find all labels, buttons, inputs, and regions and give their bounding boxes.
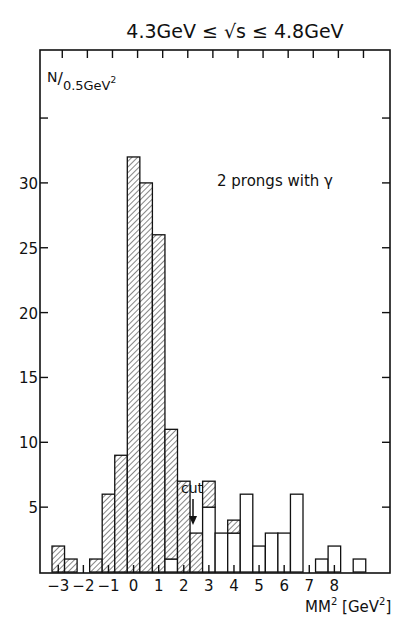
- cut-label: cut: [181, 480, 204, 496]
- x-tick-label: 0: [129, 577, 139, 595]
- x-tick-label: 1: [154, 577, 164, 595]
- x-tick-label: −3: [47, 577, 69, 595]
- y-tick-label: 5: [28, 499, 38, 517]
- histogram-bars: [52, 157, 366, 572]
- x-tick-label: −1: [97, 577, 119, 595]
- hatched-bar: [90, 559, 103, 572]
- chart-title: 4.3GeV ≤ √s ≤ 4.8GeV: [126, 20, 343, 42]
- hatched-bar: [127, 157, 140, 572]
- x-tick-label: 6: [279, 577, 289, 595]
- y-axis-label: N/0.5GeV2: [47, 69, 116, 93]
- y-tick-label: 20: [19, 305, 38, 323]
- x-tick-label: 4: [229, 577, 239, 595]
- x-tick-label: −2: [72, 577, 94, 595]
- hatched-bar: [203, 481, 216, 507]
- x-tick-label: 8: [330, 577, 340, 595]
- hatched-bar: [190, 533, 203, 572]
- hatched-bar: [228, 520, 241, 533]
- open-bar: [290, 494, 303, 572]
- open-bar: [215, 533, 228, 572]
- x-tick-label: 5: [254, 577, 264, 595]
- y-tick-label: 10: [19, 434, 38, 452]
- hatched-bar: [102, 494, 115, 572]
- open-bar: [240, 494, 253, 572]
- hatched-bar: [152, 235, 165, 572]
- open-bar: [165, 559, 178, 572]
- x-tick-label: 3: [204, 577, 214, 595]
- x-tick-label: 2: [179, 577, 189, 595]
- open-bar: [353, 559, 366, 572]
- x-axis-label: MM2 [GeV2]: [305, 596, 391, 616]
- hatched-bar: [115, 455, 128, 572]
- y-tick-label: 15: [19, 369, 38, 387]
- hatched-bar: [65, 559, 78, 572]
- y-tick-label: 25: [19, 240, 38, 258]
- y-tick-label: 30: [19, 175, 38, 193]
- open-bar: [316, 559, 329, 572]
- annotation-label: 2 prongs with γ: [217, 172, 333, 190]
- open-bar: [203, 507, 216, 572]
- hatched-bar: [165, 429, 178, 559]
- open-bar: [265, 533, 278, 572]
- hatched-bar: [140, 183, 153, 572]
- x-tick-label: 7: [305, 577, 315, 595]
- histogram-chart: 4.3GeV ≤ √s ≤ 4.8GeV −3−2−10123456785101…: [0, 0, 415, 633]
